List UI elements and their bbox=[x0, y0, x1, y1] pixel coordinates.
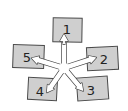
box-label-4: 4 bbox=[36, 84, 44, 99]
diagram-canvas: 12345 bbox=[0, 0, 128, 111]
box-label-5: 5 bbox=[23, 50, 31, 65]
box-label-3: 3 bbox=[87, 83, 95, 98]
box-label-2: 2 bbox=[100, 52, 108, 67]
box-label-1: 1 bbox=[63, 22, 71, 37]
radial-diagram: 12345 bbox=[0, 0, 128, 111]
